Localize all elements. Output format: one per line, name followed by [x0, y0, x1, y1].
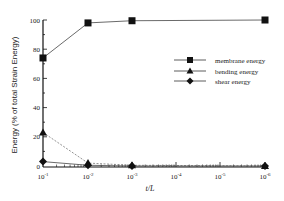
series-layer: [39, 17, 269, 171]
square-marker-icon: [40, 54, 47, 61]
y-tick-100: 100: [30, 17, 41, 25]
diamond-marker-icon: [128, 162, 136, 170]
x-tick-4: 10-4: [170, 172, 182, 181]
x-tick-6: 10-6: [259, 172, 271, 181]
triangle-marker-icon: [39, 128, 47, 135]
diamond-marker-icon: [84, 161, 92, 169]
diamond-marker-icon: [39, 158, 47, 166]
legend-item-membrane: membrane energy: [174, 57, 266, 65]
triangle-marker-icon: [187, 68, 194, 74]
x-tick-labels: 10-1 10-2 10-3 10-4 10-5 10-6: [37, 172, 271, 181]
y-tick-20: 20: [33, 133, 41, 141]
square-marker-icon: [85, 19, 92, 26]
x-tick-3: 10-3: [126, 172, 138, 181]
square-marker-icon: [187, 57, 193, 63]
bending-energy-line: [43, 132, 265, 166]
y-tick-labels: 100 80 60 40 20 0: [30, 17, 41, 171]
svg-text:bending energy: bending energy: [215, 68, 259, 76]
legend-item-shear: shear energy: [174, 78, 251, 86]
legend: membrane energy bending energy shear ene…: [174, 57, 266, 86]
square-marker-icon: [129, 17, 136, 24]
svg-text:membrane energy: membrane energy: [215, 57, 266, 65]
y-axis-title: Energy (% of total Strain Energy): [10, 36, 19, 153]
x-tick-5: 10-5: [214, 172, 226, 181]
y-tick-0: 0: [37, 163, 41, 171]
energy-chart: 100 80 60 40 20 0 10-1 10-2 10-3 10-4 10…: [0, 0, 284, 201]
square-marker-icon: [262, 17, 269, 24]
membrane-energy-line: [43, 20, 265, 58]
y-tick-60: 60: [33, 75, 41, 83]
y-tick-40: 40: [33, 104, 41, 112]
x-tick-2: 10-2: [82, 172, 94, 181]
x-tick-1: 10-1: [37, 172, 49, 181]
y-tick-80: 80: [33, 46, 41, 54]
legend-item-bending: bending energy: [174, 68, 259, 76]
diamond-marker-icon: [187, 78, 194, 85]
x-axis-title: t/L: [146, 184, 155, 193]
svg-text:shear energy: shear energy: [215, 78, 251, 86]
